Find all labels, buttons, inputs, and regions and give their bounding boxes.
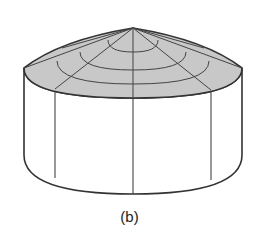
figure-caption: (b) xyxy=(0,208,259,225)
cylinder-cone-diagram xyxy=(0,0,259,237)
